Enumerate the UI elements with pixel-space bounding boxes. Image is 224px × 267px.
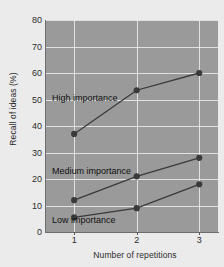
gridline-horizontal [46, 206, 218, 207]
gridline-horizontal [46, 153, 218, 154]
y-axis-title: Recall of ideas (%) [8, 44, 18, 174]
x-axis-line [45, 232, 219, 233]
y-axis-tick-label: 20 [18, 174, 42, 184]
chart-figure: Recall of ideas (%) High importance Medi… [0, 0, 224, 267]
x-axis-tick-label: 1 [64, 235, 84, 245]
y-axis-tick-label: 80 [18, 15, 42, 25]
y-axis-tick-label: 40 [18, 121, 42, 131]
series-label-medium-importance: Medium importance [52, 166, 131, 176]
y-axis-tick-label: 50 [18, 95, 42, 105]
gridline-horizontal [46, 73, 218, 74]
x-axis-tick-label: 2 [127, 235, 147, 245]
gridline-vertical [74, 20, 75, 232]
series-label-high-importance: High importance [52, 93, 118, 103]
y-axis-tick-label: 30 [18, 148, 42, 158]
y-axis-tick-label: 10 [18, 201, 42, 211]
y-axis-tick-label: 70 [18, 42, 42, 52]
x-axis-title: Number of repetitions [46, 250, 224, 260]
y-axis-line [45, 20, 46, 233]
gridline-vertical [137, 20, 138, 232]
gridline-horizontal [46, 47, 218, 48]
gridline-horizontal [46, 179, 218, 180]
series-label-low-importance: Low importance [52, 215, 116, 225]
plot-area [46, 20, 218, 232]
y-axis-tick-label: 0 [18, 227, 42, 237]
gridline-horizontal [46, 126, 218, 127]
x-axis-tick-label: 3 [189, 235, 209, 245]
gridline-horizontal [46, 20, 218, 21]
y-axis-tick-label: 60 [18, 68, 42, 78]
gridline-vertical [199, 20, 200, 232]
